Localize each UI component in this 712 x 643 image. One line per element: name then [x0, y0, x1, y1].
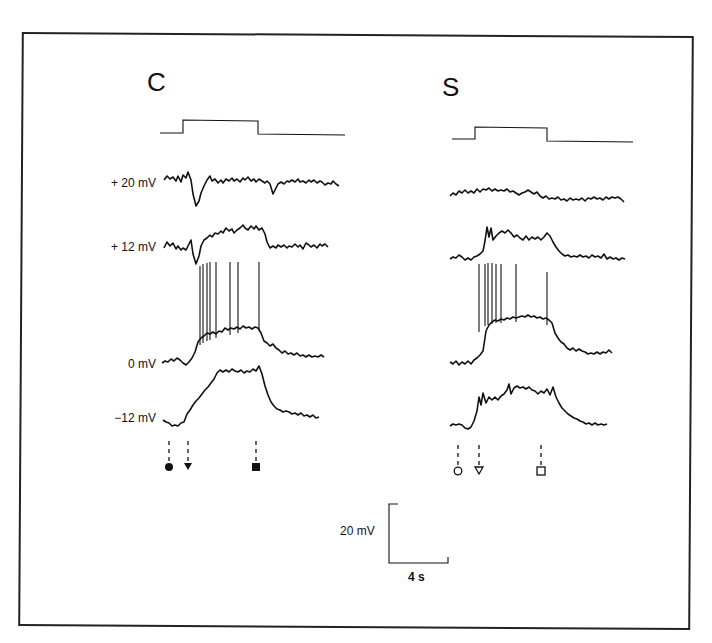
stimulus-step-s — [452, 127, 633, 142]
filled-circle-icon — [165, 463, 173, 471]
filled-square-icon — [252, 463, 260, 471]
trace-s-plus20 — [450, 188, 624, 202]
trace-c-plus20 — [164, 172, 339, 206]
event-markers-c — [165, 441, 260, 471]
event-markers-s — [454, 445, 545, 475]
trace-s-0mV — [450, 263, 612, 365]
traces-canvas — [0, 0, 712, 643]
open-square-icon — [537, 467, 545, 475]
stimulus-step-c — [160, 120, 345, 135]
scale-bar — [389, 504, 448, 563]
trace-c-minus12 — [163, 366, 319, 426]
trace-c-0mV — [162, 262, 324, 365]
open-circle-icon — [454, 467, 462, 475]
trace-s-minus12 — [450, 384, 607, 429]
filled-triangle-down-icon — [184, 463, 192, 470]
open-triangle-down-icon — [475, 467, 483, 474]
trace-s-plus12 — [450, 227, 625, 260]
trace-c-plus12 — [164, 225, 328, 264]
